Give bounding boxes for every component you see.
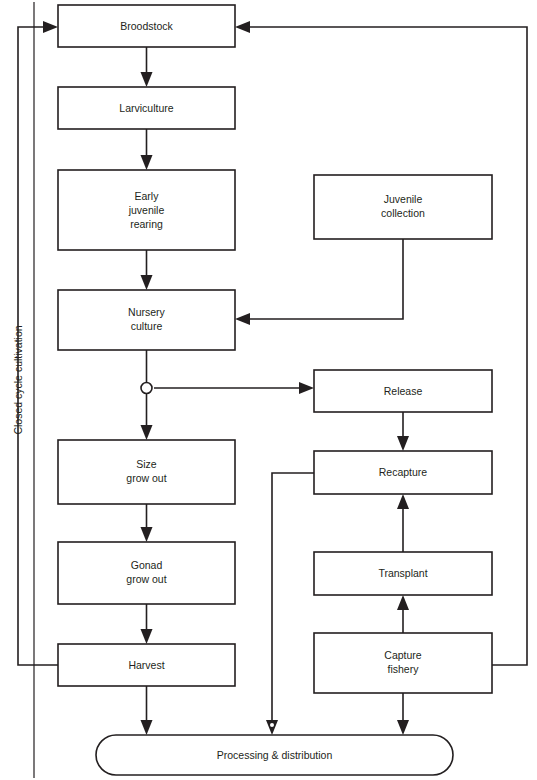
node-juvenile-collection[interactable]: Juvenile collection bbox=[314, 175, 492, 239]
node-early-juvenile-rearing[interactable]: Early juvenile rearing bbox=[58, 170, 235, 250]
node-transplant-label: Transplant bbox=[378, 567, 427, 579]
node-early-juvenile-rearing-label-line1: Early bbox=[135, 190, 160, 202]
node-processing-distribution[interactable]: Processing & distribution bbox=[96, 735, 453, 775]
edge-larviculture-to-early-juvenile-rearing bbox=[141, 129, 153, 170]
edge-release-to-recapture bbox=[397, 412, 409, 451]
node-processing-distribution-label: Processing & distribution bbox=[217, 749, 333, 761]
edge-capture-fishery-to-transplant bbox=[397, 595, 409, 633]
node-gonad-grow-out-label-line1: Gonad bbox=[131, 559, 163, 571]
node-early-juvenile-rearing-label-line3: rearing bbox=[130, 218, 163, 230]
node-recapture[interactable]: Recapture bbox=[314, 451, 492, 494]
edge-recapture-to-processing bbox=[266, 473, 314, 735]
edge-harvest-to-processing bbox=[141, 686, 153, 735]
node-harvest-label: Harvest bbox=[128, 659, 164, 671]
node-nursery-culture-label-line1: Nursery bbox=[128, 306, 166, 318]
edge-harvest-to-broodstock-loop bbox=[18, 21, 58, 665]
node-juvenile-collection-label-line1: Juvenile bbox=[384, 193, 423, 205]
node-size-grow-out-label-line1: Size bbox=[136, 458, 157, 470]
node-size-grow-out-label-line2: grow out bbox=[126, 472, 166, 484]
flowchart-diagram: Closed cycle cultivation Broodstock Larv… bbox=[0, 0, 537, 780]
edge-junction-to-release bbox=[154, 382, 314, 394]
node-early-juvenile-rearing-label-line2: juvenile bbox=[128, 204, 165, 216]
node-layer: Broodstock Larviculture Early juvenile r… bbox=[58, 5, 492, 775]
edge-size-grow-out-to-gonad-grow-out bbox=[141, 504, 153, 542]
edge-gonad-grow-out-to-harvest bbox=[141, 604, 153, 644]
edge-marker-dot-icon bbox=[270, 723, 274, 727]
node-capture-fishery[interactable]: Capture fishery bbox=[314, 633, 492, 693]
node-gonad-grow-out[interactable]: Gonad grow out bbox=[58, 542, 235, 604]
node-capture-fishery-label-line2: fishery bbox=[388, 663, 420, 675]
node-nursery-culture-label-line2: culture bbox=[131, 320, 163, 332]
node-broodstock-label: Broodstock bbox=[120, 20, 173, 32]
node-capture-fishery-label-line1: Capture bbox=[384, 649, 422, 661]
node-release-label: Release bbox=[384, 385, 423, 397]
edge-juvenile-collection-to-nursery-culture bbox=[235, 239, 403, 325]
node-larviculture-label: Larviculture bbox=[119, 102, 173, 114]
node-release[interactable]: Release bbox=[314, 370, 492, 412]
edge-junction-to-size-grow-out bbox=[141, 394, 153, 440]
node-larviculture[interactable]: Larviculture bbox=[58, 87, 235, 129]
closed-cycle-cultivation-label: Closed cycle cultivation bbox=[12, 325, 24, 434]
node-broodstock[interactable]: Broodstock bbox=[58, 5, 235, 47]
node-recapture-label: Recapture bbox=[379, 466, 428, 478]
edge-capture-fishery-to-processing bbox=[397, 693, 409, 735]
node-juvenile-collection-label-line2: collection bbox=[381, 207, 425, 219]
node-transplant[interactable]: Transplant bbox=[314, 552, 492, 595]
flowchart-canvas: Closed cycle cultivation Broodstock Larv… bbox=[0, 0, 537, 780]
node-gonad-grow-out-label-line2: grow out bbox=[126, 573, 166, 585]
node-size-grow-out[interactable]: Size grow out bbox=[58, 440, 235, 504]
junction-dot-icon bbox=[141, 383, 152, 394]
node-harvest[interactable]: Harvest bbox=[58, 644, 235, 686]
node-nursery-culture[interactable]: Nursery culture bbox=[58, 290, 235, 350]
edge-early-juvenile-rearing-to-nursery-culture bbox=[141, 250, 153, 290]
edge-transplant-to-recapture bbox=[397, 494, 409, 552]
edge-broodstock-to-larviculture bbox=[141, 47, 153, 87]
